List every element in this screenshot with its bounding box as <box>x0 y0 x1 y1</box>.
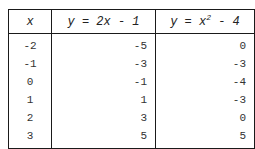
cell-y1: -1 <box>52 73 156 91</box>
cell-y2: -3 <box>156 91 255 109</box>
cell-y2: 0 <box>156 34 255 56</box>
table-row: -2 -5 0 <box>9 34 255 56</box>
cell-x: -2 <box>9 34 52 56</box>
cell-y1: -5 <box>52 34 156 56</box>
cell-y2: 0 <box>156 109 255 127</box>
cell-x: 2 <box>9 109 52 127</box>
cell-x: 0 <box>9 73 52 91</box>
cell-x: 3 <box>9 127 52 149</box>
header-linear-function: y = 2x - 1 <box>52 10 156 34</box>
cell-y1: 5 <box>52 127 156 149</box>
cell-y1: -3 <box>52 55 156 73</box>
table-row: 1 1 -3 <box>9 91 255 109</box>
table-row: 3 5 5 <box>9 127 255 149</box>
table-row: -1 -3 -3 <box>9 55 255 73</box>
cell-y1: 1 <box>52 91 156 109</box>
header-quadratic-prefix: y = x <box>170 15 206 29</box>
cell-x: -1 <box>9 55 52 73</box>
header-x: x <box>9 10 52 34</box>
table-row: 0 -1 -4 <box>9 73 255 91</box>
header-quadratic-function: y = x2 - 4 <box>156 10 255 34</box>
cell-y2: -3 <box>156 55 255 73</box>
cell-y2: -4 <box>156 73 255 91</box>
header-quadratic-suffix: - 4 <box>211 15 240 29</box>
header-row: x y = 2x - 1 y = x2 - 4 <box>9 10 255 34</box>
table-row: 2 3 0 <box>9 109 255 127</box>
cell-x: 1 <box>9 91 52 109</box>
values-table: x y = 2x - 1 y = x2 - 4 -2 -5 0 -1 -3 -3… <box>8 9 255 149</box>
table-container: x y = 2x - 1 y = x2 - 4 -2 -5 0 -1 -3 -3… <box>8 9 255 149</box>
cell-y1: 3 <box>52 109 156 127</box>
cell-y2: 5 <box>156 127 255 149</box>
